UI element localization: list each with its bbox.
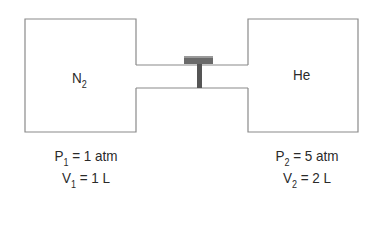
right-volume: V2 = 2 L	[262, 170, 352, 190]
right-pressure: P2 = 5 atm	[262, 148, 352, 168]
right-gas-label: He	[293, 67, 310, 82]
left-volume: V1 = 1 L	[41, 170, 131, 190]
valve-icon	[184, 56, 213, 88]
left-pressure: P1 = 1 atm	[41, 148, 131, 168]
left-gas-label: N2	[72, 70, 87, 90]
